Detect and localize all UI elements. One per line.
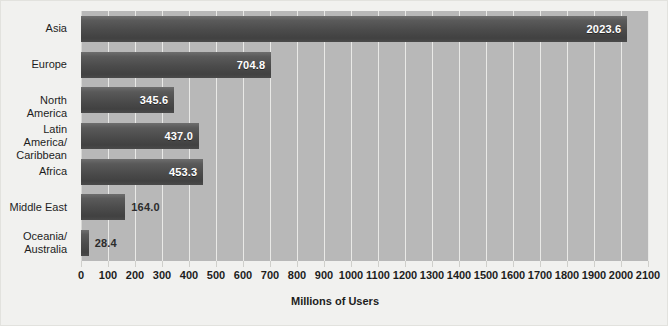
bar-value-label: 2023.6 [587,16,622,42]
x-tick-label: 2100 [636,269,660,281]
x-tickmark [513,261,514,267]
x-tick-label: 1900 [582,269,606,281]
x-tickmark [378,261,379,267]
x-tick-label: 1400 [447,269,471,281]
x-tickmark [270,261,271,267]
x-tickmark [162,261,163,267]
x-tickmark [432,261,433,267]
x-tickmark [324,261,325,267]
x-tick-label: 1800 [555,269,579,281]
bar-row: 345.6 [81,87,648,113]
bar-row: 453.3 [81,159,648,185]
x-tick-label: 1000 [339,269,363,281]
x-tickmark [405,261,406,267]
category-label: Europe [1,58,75,71]
x-tick-label: 200 [126,269,144,281]
x-tickmark [459,261,460,267]
bar[interactable] [81,230,89,256]
bar-value-label: 164.0 [131,194,160,220]
x-tickmark [567,261,568,267]
x-tick-label: 1600 [501,269,525,281]
chart-figure: 2023.6704.8345.6437.0453.3164.028.4 Asia… [0,0,668,326]
bar-row: 2023.6 [81,16,648,42]
x-tick-label: 1100 [366,269,390,281]
x-tickmark [216,261,217,267]
x-tick-label: 2000 [609,269,633,281]
category-label: Oceania/ Australia [1,230,75,256]
x-tick-label: 900 [315,269,333,281]
x-tick-label: 0 [78,269,84,281]
bar-value-label: 28.4 [95,230,117,256]
x-tickmark [189,261,190,267]
bar-value-label: 345.6 [140,87,169,113]
x-tick-label: 800 [288,269,306,281]
x-tickmark [594,261,595,267]
category-label: North America [1,94,75,120]
x-tickmark [540,261,541,267]
x-tickmark [135,261,136,267]
x-tick-label: 1300 [420,269,444,281]
x-tick-label: 100 [99,269,117,281]
x-tickmark [108,261,109,267]
category-label: Middle East [1,201,75,214]
x-tickmark [351,261,352,267]
x-tickmark [648,261,649,267]
bar-value-label: 437.0 [164,123,193,149]
gridline [648,11,649,261]
x-tick-label: 300 [153,269,171,281]
category-label: Asia [1,22,75,35]
category-label: Latin America/ Caribbean [1,123,75,162]
bar[interactable] [81,16,627,42]
bar-row: 437.0 [81,123,648,149]
category-label: Africa [1,165,75,178]
bar-row: 704.8 [81,52,648,78]
x-tick-label: 1200 [393,269,417,281]
x-tick-label: 1700 [528,269,552,281]
bar-value-label: 704.8 [237,52,266,78]
bar-row: 164.0 [81,194,648,220]
x-tickmark [621,261,622,267]
x-axis-title: Millions of Users [1,295,668,307]
x-tick-label: 500 [207,269,225,281]
plot-area: 2023.6704.8345.6437.0453.3164.028.4 [81,11,648,261]
bar[interactable] [81,194,125,220]
bar-row: 28.4 [81,230,648,256]
x-tickmark [297,261,298,267]
x-tick-label: 700 [261,269,279,281]
x-tick-label: 600 [234,269,252,281]
x-tick-label: 1500 [474,269,498,281]
x-tickmark [243,261,244,267]
x-tick-label: 400 [180,269,198,281]
x-tickmark [81,261,82,267]
bar-value-label: 453.3 [169,159,198,185]
x-tickmark [486,261,487,267]
